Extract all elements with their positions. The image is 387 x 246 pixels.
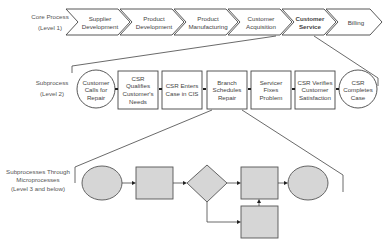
flow-process-box-1 [136,167,173,199]
level1-label: Core Process (Level 1) [28,13,72,31]
process-hierarchy-diagram [0,0,387,246]
level1-subtitle: (Level 1) [28,24,72,32]
sub-csr-qualifies: CSRQualifiesCustomer'sNeeds [118,71,158,109]
level3-label: Subprocesses Through Microprocesses (Lev… [6,168,70,193]
sub-customer-calls: CustomerCalls forRepair [78,72,114,108]
core-supplier-development: SupplierDevelopment [80,10,120,35]
core-customer-service: CustomerService [292,10,328,35]
sub-csr-verifies: CSR VerifiesCustomerSatisfaction [295,71,335,109]
level2-title: Subprocess [30,79,74,87]
sub-csr-completes: CSRCompletesCase [340,72,376,108]
sub-csr-enters: CSR EntersCase in CIS [162,71,202,109]
flow-decision-diamond [187,165,227,202]
zoom-line-left [72,36,276,73]
level2-label: Subprocess (Level 2) [30,79,74,97]
sub-branch-schedules: BranchSchedulesRepair [207,71,247,109]
flow-start-ellipse [82,166,122,200]
flow-process-box-2 [241,167,278,199]
level3-title: Subprocesses Through [6,168,70,176]
level3-subtitle: (Level 3 and below) [6,185,70,193]
level3-title-2: Microprocesses [6,176,70,184]
core-customer-acquisition: CustomerAcquisition [240,10,282,35]
core-product-manufacturing: ProductManufacturing [186,10,230,35]
core-product-development: ProductDevelopment [134,10,174,35]
sub-servicer-fixes: ServicerFixesProblem [251,71,291,109]
flow-end-ellipse [288,166,328,200]
core-billing: Billing [338,10,374,35]
level1-title: Core Process [28,13,72,21]
level2-subtitle: (Level 2) [30,90,74,98]
flow-process-box-3 [241,206,278,238]
